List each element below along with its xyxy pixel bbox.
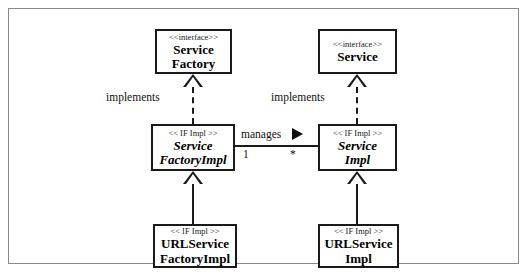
class-box-url-service-impl[interactable]: << IF Impl >> URLService Impl (318, 224, 399, 268)
class-name-line-1: URLService (161, 237, 229, 252)
class-stereotype: << IF Impl >> (333, 128, 382, 139)
class-name-line-2: Factory (172, 57, 215, 72)
class-name-line-1: Service (173, 43, 213, 58)
class-name-line-1: URLService (325, 237, 393, 252)
class-name-line-2: Impl (345, 252, 372, 267)
realization-line-right (356, 87, 358, 124)
association-line-manages (235, 145, 318, 147)
class-stereotype: <<interface>> (169, 32, 218, 43)
class-box-service-factory[interactable]: <<interface>> Service Factory (155, 29, 232, 74)
multiplicity-source: 1 (243, 148, 249, 161)
class-stereotype: << IF Impl >> (168, 128, 217, 139)
edge-label-implements-left: implements (106, 91, 160, 104)
uml-class-diagram-screenshot: implements implements manages 1 * <<inte… (0, 0, 529, 273)
class-name-line-2: Impl (345, 153, 370, 168)
realization-line-left (192, 87, 194, 124)
edge-label-manages: manages (241, 128, 281, 141)
class-name-line-2: FactoryImpl (159, 153, 226, 168)
class-box-service-impl[interactable]: << IF Impl >> Service Impl (318, 124, 397, 171)
generalization-line-right (356, 184, 358, 224)
class-name-line-1: Service (174, 139, 213, 154)
class-name-line-2: FactoryImpl (160, 252, 230, 267)
generalization-line-left (192, 184, 194, 224)
class-box-service-factory-impl[interactable]: << IF Impl >> Service FactoryImpl (151, 124, 235, 171)
class-box-url-service-factory-impl[interactable]: << IF Impl >> URLService FactoryImpl (153, 224, 237, 268)
multiplicity-target: * (290, 148, 296, 161)
class-name-line-1: Service (338, 139, 377, 154)
diagram-frame: implements implements manages 1 * <<inte… (8, 8, 519, 264)
association-navigation-arrow (292, 128, 303, 140)
edge-label-implements-right: implements (271, 91, 325, 104)
class-name-line-1: Service (337, 50, 377, 65)
class-box-service[interactable]: <<interface>> Service (318, 29, 397, 74)
